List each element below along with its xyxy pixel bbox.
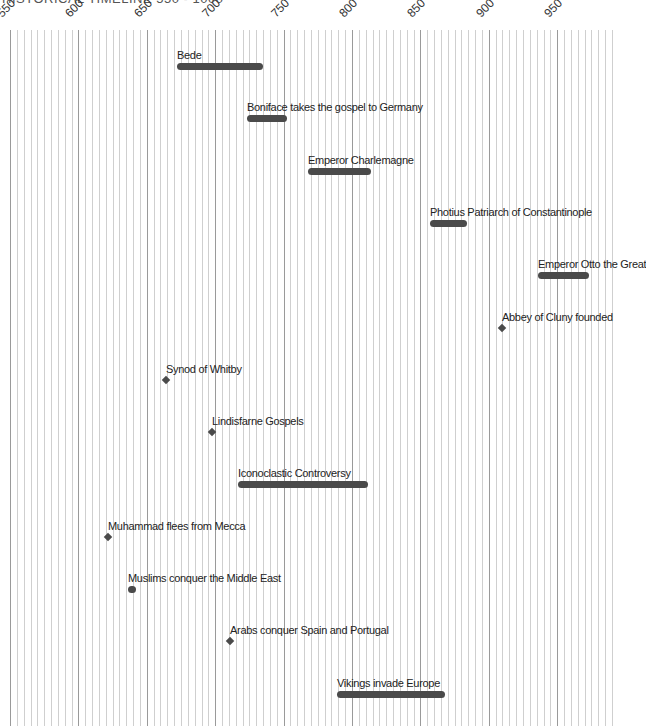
major-gridline	[215, 30, 216, 726]
event-span-bar	[538, 272, 589, 279]
minor-gridline	[92, 30, 93, 726]
minor-gridline	[585, 30, 586, 726]
event-label: Emperor Otto the Great	[538, 258, 646, 270]
major-gridline	[147, 30, 148, 726]
minor-gridline	[373, 30, 374, 726]
chart-title: HISTORICAL TIMELINE 550 - 1000	[2, 0, 223, 6]
minor-gridline	[455, 30, 456, 726]
minor-gridline	[414, 30, 415, 726]
minor-gridline	[126, 30, 127, 726]
minor-gridline	[516, 30, 517, 726]
minor-gridline	[277, 30, 278, 726]
minor-gridline	[229, 30, 230, 726]
minor-gridline	[256, 30, 257, 726]
minor-gridline	[366, 30, 367, 726]
minor-gridline	[544, 30, 545, 726]
minor-gridline	[106, 30, 107, 726]
event-span-bar	[247, 115, 287, 122]
event-label: Muhammad flees from Mecca	[108, 520, 245, 532]
minor-gridline	[133, 30, 134, 726]
minor-gridline	[407, 30, 408, 726]
minor-gridline	[400, 30, 401, 726]
minor-gridline	[44, 30, 45, 726]
minor-gridline	[154, 30, 155, 726]
event-label: Lindisfarne Gospels	[212, 415, 304, 427]
event-span-bar	[128, 586, 136, 593]
event-point-marker	[162, 376, 170, 384]
event-label: Boniface takes the gospel to Germany	[247, 101, 423, 113]
minor-gridline	[393, 30, 394, 726]
event-point-marker	[498, 324, 506, 332]
minor-gridline	[448, 30, 449, 726]
minor-gridline	[338, 30, 339, 726]
minor-gridline	[243, 30, 244, 726]
minor-gridline	[468, 30, 469, 726]
minor-gridline	[578, 30, 579, 726]
x-tick-label: 750	[268, 0, 292, 20]
event-span-bar	[308, 168, 371, 175]
major-gridline	[420, 30, 421, 726]
minor-gridline	[598, 30, 599, 726]
minor-gridline	[119, 30, 120, 726]
minor-gridline	[564, 30, 565, 726]
event-label: Emperor Charlemagne	[308, 154, 414, 166]
event-label: Muslims conquer the Middle East	[128, 572, 281, 584]
minor-gridline	[523, 30, 524, 726]
minor-gridline	[434, 30, 435, 726]
event-label: Synod of Whitby	[166, 363, 242, 375]
minor-gridline	[386, 30, 387, 726]
event-label: Abbey of Cluny founded	[502, 311, 613, 323]
minor-gridline	[222, 30, 223, 726]
event-label: Bede	[177, 49, 202, 61]
minor-gridline	[331, 30, 332, 726]
minor-gridline	[496, 30, 497, 726]
event-label: Photius Patriarch of Constantinople	[430, 206, 592, 218]
major-gridline	[10, 30, 11, 726]
minor-gridline	[202, 30, 203, 726]
minor-gridline	[605, 30, 606, 726]
minor-gridline	[318, 30, 319, 726]
major-gridline	[352, 30, 353, 726]
minor-gridline	[140, 30, 141, 726]
x-tick-label: 900	[473, 0, 497, 20]
x-tick-label: 950	[541, 0, 565, 20]
x-tick-label: 800	[336, 0, 360, 20]
minor-gridline	[379, 30, 380, 726]
event-label: Vikings invade Europe	[337, 677, 440, 689]
minor-gridline	[174, 30, 175, 726]
event-span-bar	[177, 63, 263, 70]
minor-gridline	[461, 30, 462, 726]
minor-gridline	[537, 30, 538, 726]
major-gridline	[78, 30, 79, 726]
minor-gridline	[58, 30, 59, 726]
minor-gridline	[612, 30, 613, 726]
x-tick-label: 550	[0, 0, 18, 20]
event-span-bar	[238, 481, 368, 488]
minor-gridline	[99, 30, 100, 726]
minor-gridline	[591, 30, 592, 726]
minor-gridline	[509, 30, 510, 726]
minor-gridline	[195, 30, 196, 726]
minor-gridline	[427, 30, 428, 726]
minor-gridline	[208, 30, 209, 726]
minor-gridline	[249, 30, 250, 726]
event-span-bar	[337, 691, 445, 698]
minor-gridline	[530, 30, 531, 726]
x-tick-label: 850	[404, 0, 428, 20]
event-point-marker	[226, 637, 234, 645]
event-label: Arabs conquer Spain and Portugal	[230, 624, 389, 636]
minor-gridline	[345, 30, 346, 726]
minor-gridline	[65, 30, 66, 726]
minor-gridline	[236, 30, 237, 726]
minor-gridline	[160, 30, 161, 726]
minor-gridline	[359, 30, 360, 726]
event-label: Iconoclastic Controversy	[238, 467, 351, 479]
minor-gridline	[31, 30, 32, 726]
minor-gridline	[502, 30, 503, 726]
major-gridline	[557, 30, 558, 726]
minor-gridline	[263, 30, 264, 726]
minor-gridline	[311, 30, 312, 726]
minor-gridline	[550, 30, 551, 726]
event-span-bar	[430, 220, 467, 227]
minor-gridline	[188, 30, 189, 726]
